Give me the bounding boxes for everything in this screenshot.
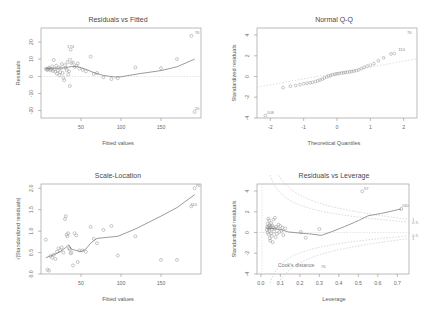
panel4-ytick-2: 0 bbox=[244, 231, 250, 234]
data-point bbox=[60, 63, 63, 66]
axis-tick-label: 0.0 bbox=[28, 270, 34, 277]
axis-tick-label: 1.5 bbox=[28, 206, 34, 213]
axis-tick-label: 1 bbox=[368, 124, 371, 130]
data-point bbox=[160, 258, 163, 261]
point-label: 240 bbox=[401, 203, 409, 208]
point-label: 76 bbox=[321, 264, 326, 269]
panel3-y-axis: 0.00.51.01.52.0 bbox=[28, 185, 41, 278]
panel2-y-axis: 4 2 0 -2 -4 bbox=[244, 33, 257, 120]
panel4-ytick-3: 2 bbox=[244, 210, 250, 213]
data-point bbox=[116, 254, 119, 257]
panel3-loess-line bbox=[46, 195, 195, 258]
panel4-ytick-1: -2 bbox=[244, 251, 250, 256]
panel1-x-axis: 50 100 150 bbox=[78, 118, 165, 130]
data-point bbox=[68, 84, 71, 87]
data-point bbox=[64, 215, 67, 218]
panel4-ytick-4: 4 bbox=[244, 189, 250, 192]
panel3-ylabel: √|Standardized residuals| bbox=[15, 198, 21, 261]
data-point bbox=[84, 70, 87, 73]
axis-tick-label: 0 bbox=[335, 124, 338, 130]
data-point bbox=[304, 236, 307, 239]
panel2-xlabel: Theoretical Quantiles bbox=[307, 140, 360, 146]
panel2-ylabel: Standardized residuals bbox=[231, 44, 237, 101]
data-point bbox=[288, 85, 291, 88]
panel2-ytick-1: -2 bbox=[244, 95, 250, 100]
point-label: 57 bbox=[363, 186, 368, 191]
panel4-contour-labels: 10.50.51 bbox=[412, 217, 419, 242]
panel1-xlabel: Fitted values bbox=[102, 140, 134, 146]
panel2-ytick-2: 0 bbox=[244, 75, 250, 78]
data-point bbox=[281, 86, 284, 89]
data-point bbox=[176, 58, 179, 61]
data-point bbox=[283, 227, 286, 230]
data-point bbox=[52, 59, 55, 62]
data-point bbox=[44, 238, 47, 241]
panel1-xtick-1: 100 bbox=[117, 124, 126, 130]
panel3-xtick-2: 150 bbox=[157, 280, 166, 286]
cooks-distance-label: Cook's distance bbox=[278, 262, 315, 268]
data-point bbox=[382, 56, 385, 59]
panel2-x-axis: -2-1012 bbox=[268, 118, 405, 130]
panel4-title: Residuals vs Leverage bbox=[298, 172, 369, 180]
axis-tick-label: -1 bbox=[301, 124, 306, 130]
data-point bbox=[362, 66, 365, 69]
data-point bbox=[274, 236, 277, 239]
cooks-distance-contour bbox=[278, 175, 407, 219]
panel4-y-axis: 4 2 0 -2 -4 bbox=[244, 189, 257, 276]
data-point bbox=[365, 65, 368, 68]
data-point bbox=[311, 81, 314, 84]
panel2-ytick-4: 4 bbox=[244, 33, 250, 36]
panel1-ytick-1: -10 bbox=[28, 90, 34, 98]
panel3-x-axis: 50 100 150 bbox=[78, 274, 165, 286]
panel4-ytick-0: -4 bbox=[244, 272, 250, 277]
point-label: 108 bbox=[266, 110, 274, 115]
data-point bbox=[72, 264, 75, 267]
panel3-points bbox=[44, 187, 196, 272]
data-point bbox=[302, 82, 305, 85]
data-point bbox=[89, 55, 92, 58]
panel1-title: Residuals vs Fitted bbox=[88, 16, 147, 23]
panel3-xtick-1: 100 bbox=[117, 280, 126, 286]
data-point bbox=[110, 78, 113, 81]
data-point bbox=[280, 226, 283, 229]
point-label: 76 bbox=[195, 30, 200, 35]
data-point bbox=[134, 235, 137, 238]
panel4-loess-line bbox=[266, 209, 400, 235]
panel2-points bbox=[263, 52, 395, 117]
data-point bbox=[392, 52, 395, 55]
panel2-reference-line bbox=[257, 59, 417, 87]
data-point bbox=[281, 234, 284, 237]
axis-tick-label: 0.6 bbox=[374, 280, 381, 286]
panel4-ylabel: Standardized residuals bbox=[231, 200, 237, 257]
panel2-ytick-3: 2 bbox=[244, 54, 250, 57]
data-point bbox=[389, 53, 392, 56]
panel1-y-axis: 20 10 0 -10 -20 bbox=[28, 39, 41, 114]
data-point bbox=[176, 258, 179, 261]
data-point bbox=[57, 247, 60, 250]
axis-tick-label: 0.3 bbox=[315, 280, 322, 286]
data-point bbox=[305, 82, 308, 85]
panel1-xtick-2: 150 bbox=[157, 124, 166, 130]
data-point bbox=[317, 228, 320, 231]
panel1-plot-frame bbox=[41, 28, 201, 118]
cooks-distance-contour bbox=[278, 239, 407, 283]
axis-tick-label: 0.1 bbox=[276, 280, 283, 286]
data-point bbox=[294, 84, 297, 87]
axis-tick-label: 0.2 bbox=[296, 280, 303, 286]
panel1-loess-line bbox=[46, 59, 195, 77]
data-point bbox=[76, 261, 79, 264]
data-point bbox=[54, 258, 57, 261]
axis-tick-label: 1.0 bbox=[28, 227, 34, 234]
data-point bbox=[102, 228, 105, 231]
panel-scale-location: Scale-Location 0.00.51.01.52.0 √|Standar… bbox=[0, 156, 216, 312]
data-point bbox=[308, 81, 311, 84]
panel-residuals-vs-leverage: Residuals vs Leverage 4 2 0 -2 -4 Standa… bbox=[216, 156, 431, 312]
data-point bbox=[372, 62, 375, 65]
panel2-title: Normal Q-Q bbox=[315, 16, 353, 24]
panel3-title: Scale-Location bbox=[95, 172, 141, 179]
data-point bbox=[266, 217, 269, 220]
data-point bbox=[67, 73, 70, 76]
data-point bbox=[134, 66, 137, 69]
panel4-xlabel: Leverage bbox=[322, 296, 345, 302]
point-label: 17 bbox=[67, 57, 72, 62]
